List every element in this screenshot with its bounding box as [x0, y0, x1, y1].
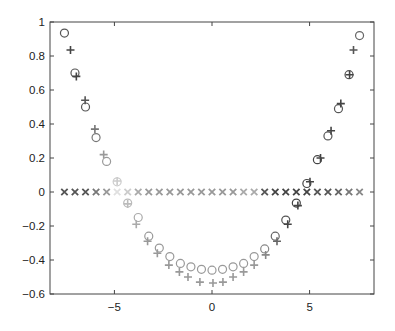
plus-marker	[66, 46, 74, 54]
plus-marker	[250, 261, 258, 269]
circle-marker	[155, 244, 163, 252]
cross-marker	[209, 189, 215, 195]
cross-marker	[261, 189, 267, 195]
circle-marker	[145, 232, 153, 240]
cross-marker	[198, 189, 204, 195]
axis-tick-labels: −50510.80.60.40.20−0.2−0.4−0.6	[22, 16, 312, 313]
y-tick-label: 0.6	[29, 84, 45, 96]
cross-marker	[135, 189, 141, 195]
circle-marker	[250, 253, 258, 261]
circle-marker	[282, 216, 290, 224]
y-tick-label: 0.8	[29, 50, 45, 62]
cross-marker	[272, 189, 278, 195]
circle-marker	[219, 265, 227, 273]
plus-marker	[175, 268, 183, 276]
axes-frame	[50, 22, 374, 294]
cross-marker	[251, 189, 257, 195]
circle-marker	[176, 259, 184, 267]
y-tick-label: 1	[39, 16, 45, 28]
cross-marker	[93, 189, 99, 195]
cross-marker	[314, 189, 320, 195]
circle-marker	[60, 29, 68, 37]
cross-marker	[346, 189, 352, 195]
y-tick-label: 0.4	[29, 118, 46, 130]
cross-marker	[82, 189, 88, 195]
y-tick-label: 0.2	[29, 152, 45, 164]
cross-marker	[103, 189, 109, 195]
plus-marker	[209, 279, 217, 287]
plus-marker	[153, 249, 161, 257]
cross-marker	[124, 189, 130, 195]
plus-marker	[196, 278, 204, 286]
circle-marker	[92, 134, 100, 142]
cross-marker	[240, 189, 246, 195]
cross-marker	[230, 189, 236, 195]
plus-marker	[229, 273, 237, 281]
y-tick-label: −0.4	[22, 254, 45, 266]
plus-marker	[165, 261, 173, 269]
cross-marker	[146, 189, 152, 195]
cross-marker	[114, 189, 120, 195]
circle-marker	[187, 263, 195, 271]
cross-marker	[188, 189, 194, 195]
cross-marker	[356, 189, 362, 195]
cross-marker	[177, 189, 183, 195]
plus-marker	[350, 46, 358, 54]
y-tick-label: −0.2	[22, 220, 45, 232]
circle-marker	[240, 259, 248, 267]
circle-marker	[356, 32, 364, 40]
x-tick-label: 0	[209, 301, 215, 313]
circle-marker	[134, 214, 142, 222]
plus-marker	[273, 237, 281, 245]
cross-marker	[156, 189, 162, 195]
cross-marker	[61, 189, 67, 195]
axis-ticks	[50, 22, 374, 294]
circle-marker	[271, 232, 279, 240]
plus-marker	[327, 127, 335, 135]
x-tick-label: −5	[108, 301, 121, 313]
plus-marker	[81, 96, 89, 104]
circle-marker	[166, 253, 174, 261]
plus-marker	[240, 268, 248, 276]
cross-marker	[283, 189, 289, 195]
cross-marker	[219, 189, 225, 195]
y-tick-label: 0	[39, 186, 45, 198]
plus-marker	[284, 220, 292, 228]
scatter-chart: −50510.80.60.40.20−0.2−0.4−0.6	[0, 0, 395, 331]
cross-marker	[335, 189, 341, 195]
plus-marker	[219, 278, 227, 286]
cross-marker	[72, 189, 78, 195]
cross-marker	[304, 189, 310, 195]
plus-marker	[184, 273, 192, 281]
cross-marker	[293, 189, 299, 195]
cross-marker	[167, 189, 173, 195]
circle-marker	[229, 263, 237, 271]
x-tick-label: 5	[306, 301, 312, 313]
y-tick-label: −0.6	[22, 288, 45, 300]
circle-marker	[261, 245, 269, 253]
circle-marker	[208, 266, 216, 274]
plus-marker	[91, 125, 99, 133]
cross-marker	[325, 189, 331, 195]
plot-markers	[60, 29, 363, 287]
circle-marker	[197, 265, 205, 273]
plus-marker	[337, 100, 345, 108]
